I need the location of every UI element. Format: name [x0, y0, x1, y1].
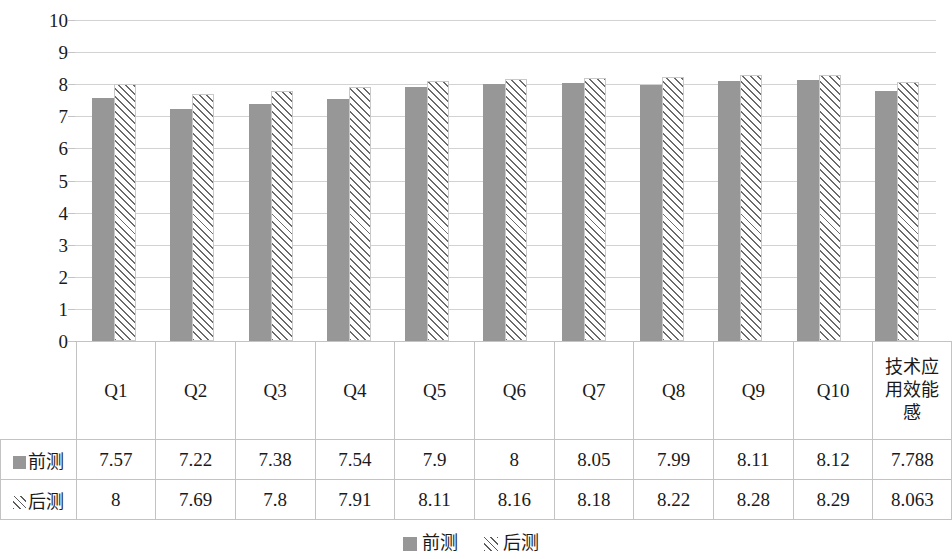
table-cell: 7.22	[156, 440, 236, 480]
table-cell: 7.91	[315, 480, 395, 520]
y-axis-tick-label: 10	[2, 11, 68, 30]
table-column-header-label: Q2	[184, 380, 207, 401]
bar-group	[623, 20, 701, 341]
bar-pre-test	[483, 84, 505, 341]
table-cell: 8.29	[793, 480, 873, 520]
table-column-header-label: Q9	[742, 380, 765, 401]
bar-group	[75, 20, 153, 341]
table-column-header: Q7	[554, 342, 634, 440]
bar-post-test	[819, 75, 841, 341]
bar-post-test	[662, 77, 684, 341]
bar-group	[701, 20, 779, 341]
bar-pre-test	[718, 81, 740, 341]
table-cell-value: 8.18	[577, 489, 610, 510]
y-axis-tick-label: 5	[2, 171, 68, 190]
table-cell: 8.22	[634, 480, 714, 520]
table-column-header: Q3	[235, 342, 315, 440]
bar-group	[858, 20, 936, 341]
y-axis-tick-label: 6	[2, 139, 68, 158]
table-cell: 7.38	[235, 440, 315, 480]
y-axis-tick-mark	[68, 20, 75, 21]
table-column-header: Q1	[76, 342, 156, 440]
y-axis-tick-label: 1	[2, 299, 68, 318]
plot-region: 012345678910	[0, 0, 942, 345]
table-column-header: Q5	[395, 342, 475, 440]
table-cell: 8.05	[554, 440, 634, 480]
y-axis-tick-mark	[68, 116, 75, 117]
table-cell: 8.18	[554, 480, 634, 520]
table-column-header-label: Q5	[423, 380, 446, 401]
table-cell: 8.12	[793, 440, 873, 480]
data-table-body: Q1Q2Q3Q4Q5Q6Q7Q8Q9Q10技术应用效能感前测7.577.227.…	[1, 342, 952, 520]
legend-entry[interactable]: 前测	[403, 528, 458, 554]
y-axis-tick-label: 3	[2, 235, 68, 254]
bar-post-test	[584, 78, 606, 341]
table-cell-value: 8.16	[498, 489, 531, 510]
table-cell-value: 8.22	[657, 489, 690, 510]
table-column-header: 技术应用效能感	[873, 342, 952, 440]
table-column-header: Q4	[315, 342, 395, 440]
table-cell-value: 7.38	[259, 449, 292, 470]
bar-group	[388, 20, 466, 341]
bar-pre-test	[327, 99, 349, 341]
table-cell-value: 7.57	[99, 449, 132, 470]
table-cell-value: 7.22	[179, 449, 212, 470]
table-cell-value: 8.11	[418, 489, 451, 510]
data-table-container: Q1Q2Q3Q4Q5Q6Q7Q8Q9Q10技术应用效能感前测7.577.227.…	[0, 341, 942, 520]
y-axis-tick-mark	[68, 277, 75, 278]
table-column-header-label: Q3	[264, 380, 287, 401]
hatched-square-marker-icon	[13, 496, 26, 509]
bar-post-test	[897, 82, 919, 341]
table-column-header: Q9	[714, 342, 794, 440]
y-axis-tick-mark	[68, 213, 75, 214]
table-row-label-cell: 后测	[1, 480, 77, 520]
table-cell-value: 8.29	[816, 489, 849, 510]
table-cell: 8	[76, 480, 156, 520]
bar-group	[310, 20, 388, 341]
table-cell: 7.9	[395, 440, 475, 480]
legend-entry-label: 后测	[503, 528, 539, 554]
table-row: 后测87.697.87.918.118.168.188.228.288.298.…	[1, 480, 952, 520]
chart-legend: 前测后测	[0, 528, 942, 554]
table-column-header-label: Q4	[343, 380, 366, 401]
bar-post-test	[740, 75, 762, 341]
legend-entry[interactable]: 后测	[484, 528, 539, 554]
table-row-label: 前测	[28, 452, 64, 472]
table-cell: 8.11	[714, 440, 794, 480]
table-cell-value: 8	[510, 449, 520, 470]
bar-post-test	[192, 94, 214, 341]
y-axis-tick-mark	[68, 52, 75, 53]
table-cell: 7.54	[315, 440, 395, 480]
table-cell: 8	[474, 440, 554, 480]
y-axis: 012345678910	[0, 0, 68, 345]
table-column-header: Q8	[634, 342, 714, 440]
y-axis-tick-label: 7	[2, 107, 68, 126]
y-axis-tick-label: 9	[2, 43, 68, 62]
legend-entry-label: 前测	[422, 528, 458, 554]
bar-group	[466, 20, 544, 341]
table-column-header-label: Q10	[817, 380, 850, 401]
bar-post-test	[114, 84, 136, 341]
y-axis-tick-label: 2	[2, 267, 68, 286]
bar-post-test	[427, 81, 449, 341]
table-cell: 7.99	[634, 440, 714, 480]
bar-group	[545, 20, 623, 341]
data-table: Q1Q2Q3Q4Q5Q6Q7Q8Q9Q10技术应用效能感前测7.577.227.…	[0, 341, 952, 520]
table-header-row: Q1Q2Q3Q4Q5Q6Q7Q8Q9Q10技术应用效能感	[1, 342, 952, 440]
solid-square-marker-icon	[13, 456, 26, 469]
table-cell-value: 8.05	[577, 449, 610, 470]
hatched-square-swatch-icon	[484, 537, 498, 551]
table-cell: 7.69	[156, 480, 236, 520]
table-column-header-label: Q8	[662, 380, 685, 401]
solid-square-swatch-icon	[403, 537, 417, 551]
y-axis-tick-mark	[68, 181, 75, 182]
table-cell-value: 8.063	[891, 489, 934, 510]
table-cell: 7.8	[235, 480, 315, 520]
bar-pre-test	[405, 87, 427, 341]
bar-pre-test	[797, 80, 819, 341]
bar-group	[232, 20, 310, 341]
table-cell-value: 8.28	[737, 489, 770, 510]
table-column-header: Q2	[156, 342, 236, 440]
plot-area	[75, 20, 936, 341]
